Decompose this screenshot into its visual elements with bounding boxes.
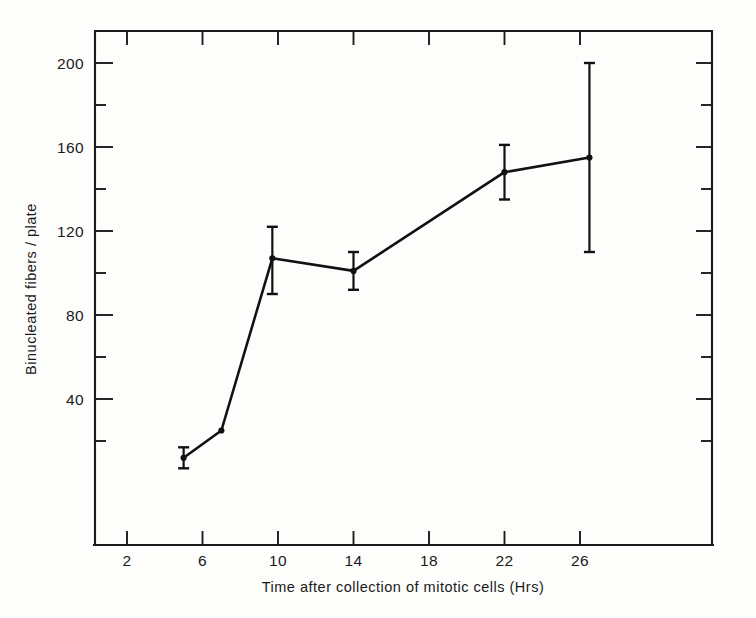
data-point-marker <box>350 268 356 274</box>
data-point-marker <box>586 154 592 160</box>
series-line <box>184 158 590 458</box>
line-chart-plot: 4080120160200 261014182226 Time after co… <box>0 0 756 618</box>
x-tick-label: 10 <box>269 552 287 569</box>
y-tick-label: 80 <box>66 307 84 324</box>
x-tick-label: 18 <box>420 552 438 569</box>
x-tick-label: 26 <box>571 552 589 569</box>
x-tick-label: 14 <box>344 552 362 569</box>
error-bars <box>178 63 595 468</box>
data-point-marker <box>181 455 187 461</box>
data-point-marker <box>501 169 507 175</box>
x-axis-ticks <box>127 531 580 545</box>
y-tick-label: 120 <box>57 223 84 240</box>
data-point-marker <box>269 255 275 261</box>
top-frame-ticks <box>127 31 580 45</box>
y-tick-label: 200 <box>57 55 84 72</box>
x-tick-label: 2 <box>122 552 131 569</box>
x-tick-label: 22 <box>495 552 513 569</box>
x-axis-title: Time after collection of mitotic cells (… <box>262 579 545 595</box>
y-axis-ticks <box>95 63 113 441</box>
y-axis-title: Binucleated fibers / plate <box>23 203 39 375</box>
right-frame-ticks <box>696 63 712 441</box>
data-point-marker <box>218 427 224 433</box>
y-tick-label: 40 <box>66 391 84 408</box>
y-axis-tick-labels: 4080120160200 <box>57 55 84 408</box>
series-markers <box>181 154 593 461</box>
y-tick-label: 160 <box>57 139 84 156</box>
figure-root: 4080120160200 261014182226 Time after co… <box>0 0 756 618</box>
x-axis-tick-labels: 261014182226 <box>122 552 589 569</box>
x-tick-label: 6 <box>198 552 207 569</box>
